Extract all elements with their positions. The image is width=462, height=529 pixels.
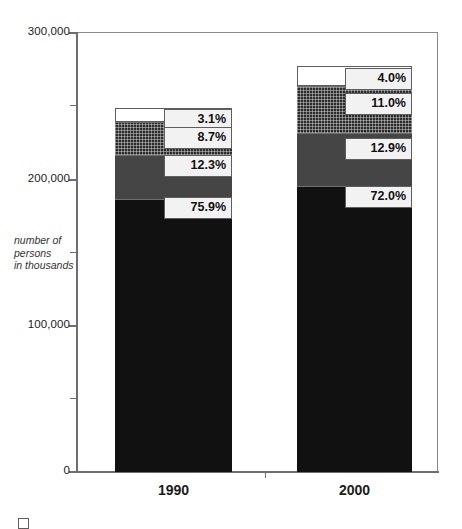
bar-2000-label-black: 72.0%: [345, 186, 412, 208]
y-tick-100000: [69, 325, 77, 327]
y-axis-title: number of persons in thousands: [14, 234, 76, 272]
x-tick-label-2000: 2000: [297, 482, 412, 498]
y-tick-label-300000: 300,000: [28, 25, 70, 37]
y-axis-title-line-1: number of: [14, 234, 76, 247]
x-tick-label-1990: 1990: [115, 482, 232, 498]
bar-1990-label-gray: 12.3%: [164, 155, 232, 177]
legend-swatch-white[interactable]: [18, 518, 29, 529]
y-tick-0: [69, 471, 77, 473]
bar-2000-label-gray: 12.9%: [345, 138, 412, 160]
bar-2000-label-checkered: 11.0%: [345, 93, 412, 115]
y-tick-50000: [70, 398, 77, 399]
bar-2000-label-white: 4.0%: [345, 68, 412, 90]
bar-1990-segment-black: [115, 199, 232, 472]
y-tick-label-200000: 200,000: [28, 172, 70, 184]
bar-1990-label-black: 75.9%: [164, 197, 232, 219]
y-tick-label-0: 0: [64, 464, 71, 476]
y-tick-300000: [69, 32, 77, 34]
y-tick-250000: [70, 105, 77, 106]
legend: [18, 518, 35, 529]
bar-2000[interactable]: [297, 66, 412, 472]
bar-2000-segment-black: [297, 186, 412, 472]
x-tick-mid: [265, 472, 266, 478]
y-tick-200000: [69, 179, 77, 181]
bar-1990-label-checkered: 8.7%: [164, 127, 232, 149]
y-axis-title-line-3: in thousands: [14, 259, 76, 272]
y-axis-title-line-2: persons: [14, 247, 76, 260]
y-tick-label-100000: 100,000: [28, 318, 70, 330]
